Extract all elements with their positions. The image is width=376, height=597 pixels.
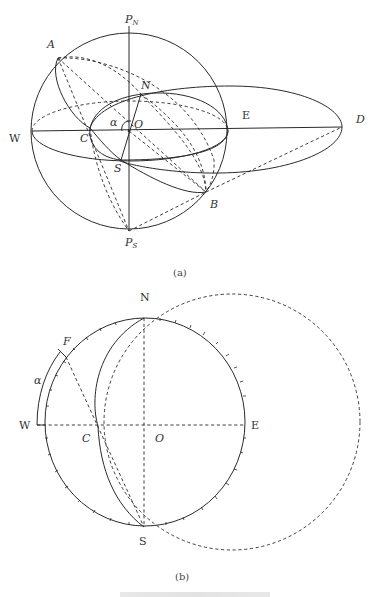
label-e: E bbox=[251, 419, 259, 432]
horizon-line bbox=[32, 127, 342, 131]
label-s: S bbox=[139, 535, 147, 548]
label-alpha: α bbox=[110, 116, 118, 129]
figure-caption-truncated bbox=[120, 592, 270, 597]
label-c: C bbox=[80, 132, 89, 145]
subcaption-b: (b) bbox=[175, 571, 189, 582]
projection-circle-dashed bbox=[104, 294, 360, 550]
equator-front bbox=[32, 131, 228, 161]
alpha-arc bbox=[37, 352, 60, 425]
label-b: B bbox=[209, 198, 218, 211]
subcaption-a: (a) bbox=[173, 267, 187, 278]
label-o: O bbox=[155, 432, 164, 445]
label-n: N bbox=[140, 79, 151, 92]
label-alpha: α bbox=[34, 374, 42, 387]
label-a: A bbox=[46, 38, 55, 51]
label-s: S bbox=[114, 162, 122, 175]
equator-back-dashed bbox=[32, 101, 228, 131]
label-n: N bbox=[140, 291, 150, 304]
label-e: E bbox=[242, 109, 250, 122]
center-dot-o bbox=[128, 130, 131, 133]
label-ps: PS bbox=[124, 236, 137, 250]
figure-b: N S W E C O F α (b) bbox=[19, 291, 360, 582]
label-f: F bbox=[62, 335, 71, 348]
line-a-ps bbox=[58, 58, 129, 231]
line-ps-b bbox=[129, 192, 206, 231]
label-d: D bbox=[355, 113, 365, 126]
label-w: W bbox=[9, 132, 21, 145]
line-o-b bbox=[129, 131, 206, 192]
arc-c-ps bbox=[90, 128, 129, 231]
great-circle-arc-ncs bbox=[95, 318, 144, 527]
figure-a: PN PS A B C D N S O W E α (a) bbox=[9, 13, 365, 278]
diagram-canvas: PN PS A B C D N S O W E α (a) bbox=[0, 0, 376, 597]
label-o: O bbox=[134, 118, 143, 131]
label-w: W bbox=[19, 419, 31, 432]
primitive-circle bbox=[45, 318, 245, 526]
label-c: C bbox=[82, 432, 91, 445]
line-f-s bbox=[66, 357, 144, 527]
label-pn: PN bbox=[124, 13, 139, 27]
